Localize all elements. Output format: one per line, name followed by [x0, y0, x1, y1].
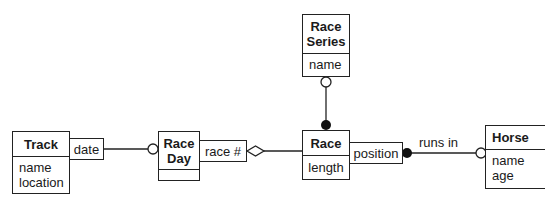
class-horse[interactable]: Horse name age: [485, 125, 545, 189]
qualifier-label: race #: [205, 144, 241, 159]
hollow-circle-icon: [148, 144, 158, 154]
qualifier-position[interactable]: position: [349, 142, 403, 164]
class-header: Race Day: [159, 132, 199, 170]
class-name: Day: [167, 151, 191, 166]
association-label-runs-in: runs in: [419, 135, 458, 150]
class-name: Horse: [492, 130, 529, 145]
class-header: Horse: [486, 126, 545, 150]
class-name: Race: [163, 136, 194, 151]
class-race-series[interactable]: Race Series name: [302, 14, 350, 77]
qualifier-race-number[interactable]: race #: [199, 140, 247, 162]
qualifier-label: position: [354, 146, 399, 161]
attribute-list: length: [303, 156, 349, 179]
class-name: Race: [310, 136, 341, 151]
filled-circle-icon: [321, 120, 331, 130]
attribute-list: name location: [13, 157, 69, 193]
filled-circle-icon: [402, 148, 412, 158]
class-name: Race: [310, 19, 341, 34]
qualifier-label: date: [74, 142, 99, 157]
class-name: Track: [24, 137, 58, 152]
attribute: name: [309, 57, 343, 72]
attribute: age: [492, 168, 539, 183]
attribute-list: name age: [486, 150, 545, 188]
class-header: Race Series: [303, 15, 349, 54]
class-race-day[interactable]: Race Day: [158, 131, 200, 181]
attribute: length: [308, 160, 343, 175]
aggregation-diamond-icon: [247, 146, 264, 156]
class-race[interactable]: Race length: [302, 130, 350, 180]
hollow-circle-icon: [321, 77, 331, 87]
attribute: name: [492, 153, 539, 168]
class-header: Track: [13, 132, 69, 157]
class-header: Race: [303, 131, 349, 156]
class-track[interactable]: Track name location: [12, 131, 70, 194]
class-name: Series: [306, 34, 345, 49]
attribute: name: [19, 160, 63, 175]
attribute: location: [19, 175, 63, 190]
attribute-list: name: [303, 54, 349, 76]
qualifier-date[interactable]: date: [69, 138, 104, 160]
